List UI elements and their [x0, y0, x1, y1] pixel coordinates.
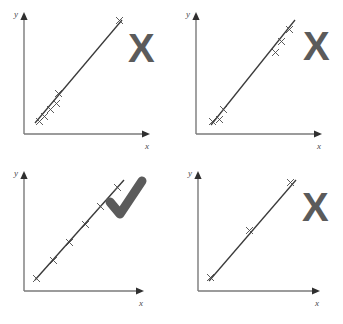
- x-axis-arrowhead: [314, 130, 322, 137]
- y-axis-label: y: [13, 9, 18, 19]
- y-axis-label: y: [13, 168, 18, 178]
- x-axis-label: x: [316, 141, 321, 151]
- data-point: [278, 38, 285, 45]
- verdict-mark-correct: [110, 181, 142, 214]
- x-axis-label: x: [138, 298, 143, 308]
- y-axis-arrowhead: [192, 12, 199, 20]
- panel-top-right: y x: [178, 4, 343, 154]
- data-point: [114, 184, 121, 191]
- best-fit-line: [35, 180, 124, 280]
- verdict-mark-incorrect: X: [303, 26, 330, 66]
- panel-bottom-left-plot: y x: [6, 163, 172, 313]
- data-point: [287, 179, 294, 186]
- x-axis-arrowhead: [136, 287, 144, 294]
- verdict-mark-incorrect: X: [302, 187, 329, 227]
- y-axis-arrowhead: [20, 171, 27, 179]
- x-axis-label: x: [144, 141, 149, 151]
- data-point: [53, 100, 60, 107]
- data-point: [66, 239, 73, 246]
- x-axis-arrowhead: [312, 287, 320, 294]
- data-point: [41, 113, 48, 120]
- best-fit-line: [209, 180, 296, 281]
- panel-bottom-left: y x: [6, 163, 172, 313]
- panel-top-left: y x: [6, 4, 172, 154]
- data-point: [97, 203, 104, 210]
- panel-bottom-right: y x X: [178, 163, 343, 313]
- data-point: [82, 221, 89, 228]
- y-axis-label: y: [187, 168, 192, 178]
- y-axis-arrowhead: [194, 171, 201, 179]
- y-axis-label: y: [185, 9, 190, 19]
- figure-four-scatter-panels: y x: [0, 0, 343, 324]
- data-point: [272, 49, 279, 56]
- x-axis-arrowhead: [142, 130, 150, 137]
- x-axis-label: x: [314, 298, 319, 308]
- y-axis-arrowhead: [20, 12, 27, 20]
- data-point: [50, 257, 57, 264]
- data-point: [220, 106, 227, 113]
- data-point: [33, 275, 40, 282]
- figure-caption: [4, 316, 340, 324]
- verdict-mark-incorrect: X: [128, 28, 155, 68]
- data-point: [216, 116, 223, 123]
- data-points: [207, 179, 294, 281]
- data-point: [47, 106, 54, 113]
